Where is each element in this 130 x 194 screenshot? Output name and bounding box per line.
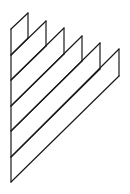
strip-1: [11, 13, 28, 55]
strip-top-edge: [11, 28, 64, 80]
strip-3: [11, 28, 64, 106]
diagram-svg: [0, 0, 130, 194]
strip-5: [11, 43, 100, 157]
strip-top-edge: [11, 13, 28, 29]
strip-4: [11, 36, 82, 131]
stacked-strips-diagram: [0, 0, 130, 194]
strip-top-edge: [11, 49, 119, 157]
strip-top-edge: [11, 43, 100, 131]
strip-bottom-edge: [11, 76, 119, 182]
